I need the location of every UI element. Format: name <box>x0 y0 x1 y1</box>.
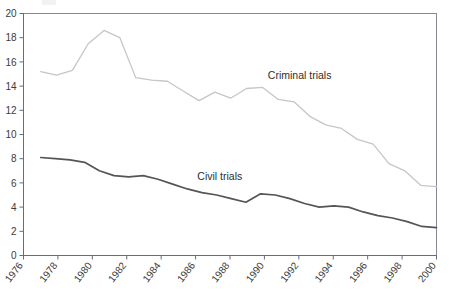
y-tick-label: 0 <box>11 250 17 261</box>
x-tick-label: 2000 <box>416 260 439 285</box>
y-tick-label: 8 <box>11 153 17 164</box>
x-tick-label: 1982 <box>106 260 129 285</box>
x-tick-label: 1986 <box>175 260 198 285</box>
series-line-criminal-trials <box>41 30 437 186</box>
series-label-group: Criminal trialsCivil trials <box>197 69 331 183</box>
x-tick-label: 1984 <box>140 260 163 285</box>
series-group <box>41 30 437 227</box>
y-tick-label: 10 <box>5 129 17 140</box>
y-tick-label: 20 <box>5 8 17 19</box>
y-tick-group: 20181614121086420 <box>5 8 23 261</box>
chart-container: 20181614121086420 1976197819801982198419… <box>0 0 453 297</box>
series-line-civil-trials <box>41 157 437 227</box>
x-tick-label: 1976 <box>3 260 26 285</box>
x-tick-label: 1988 <box>209 260 232 285</box>
y-tick-label: 14 <box>5 81 17 92</box>
line-chart: 20181614121086420 1976197819801982198419… <box>0 0 453 297</box>
y-tick-label: 2 <box>11 226 17 237</box>
y-tick-label: 16 <box>5 57 17 68</box>
x-tick-group: 1976197819801982198419861988199019921994… <box>3 256 439 285</box>
series-label-civil-trials: Civil trials <box>197 170 242 182</box>
x-tick-label: 1978 <box>37 260 60 285</box>
x-tick-label: 1990 <box>244 260 267 285</box>
y-tick-label: 4 <box>11 202 17 213</box>
x-tick-label: 1994 <box>312 260 335 285</box>
y-tick-label: 6 <box>11 178 17 189</box>
series-label-criminal-trials: Criminal trials <box>268 69 332 81</box>
x-tick-label: 1992 <box>278 260 301 285</box>
x-tick-label: 1996 <box>347 260 370 285</box>
x-tick-label: 1980 <box>72 260 95 285</box>
x-tick-label: 1998 <box>381 260 404 285</box>
y-tick-label: 18 <box>5 32 17 43</box>
y-tick-label: 12 <box>5 105 17 116</box>
